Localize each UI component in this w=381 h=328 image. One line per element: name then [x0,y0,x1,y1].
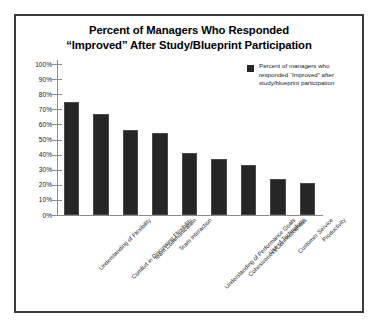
y-axis-tick-label: 70% [20,106,52,113]
y-axis-tick-label: 20% [20,181,52,188]
chart-container: Percent of Managers Who Responded “Impro… [14,14,364,313]
bar [182,153,198,215]
x-axis-tick-label: Understanding of Performance Goals [223,217,297,291]
x-axis-line [57,215,323,216]
legend-color-swatch [247,65,254,72]
y-axis-tick-label: 0% [20,212,52,219]
x-axis-labels: Understanding of FlexibilityComfort in D… [57,217,337,312]
y-axis-tick-label: 50% [20,136,52,143]
y-axis-labels: 0%10%20%30%40%50%60%70%80%90%100% [16,16,52,315]
chart-title: Percent of Managers Who Responded “Impro… [16,23,362,53]
bar [93,114,109,215]
y-axis-tick-label: 90% [20,76,52,83]
bar [270,179,286,215]
y-axis-tick-label: 40% [20,151,52,158]
y-axis-tick-label: 100% [20,61,52,68]
bar [64,102,80,215]
bar [300,183,316,215]
bar [123,130,139,215]
chart-title-line-2: “Improved” After Study/Blueprint Partici… [16,38,362,53]
y-axis-tick-label: 80% [20,91,52,98]
y-axis-tick-label: 10% [20,196,52,203]
chart-title-line-1: Percent of Managers Who Responded [16,23,362,38]
bar [241,165,257,215]
bar [152,133,168,215]
legend-entry-label: Percent of managers who responded “Impro… [259,62,359,88]
y-axis-tick-label: 30% [20,166,52,173]
y-axis-tick-label: 60% [20,121,52,128]
bar [211,159,227,215]
